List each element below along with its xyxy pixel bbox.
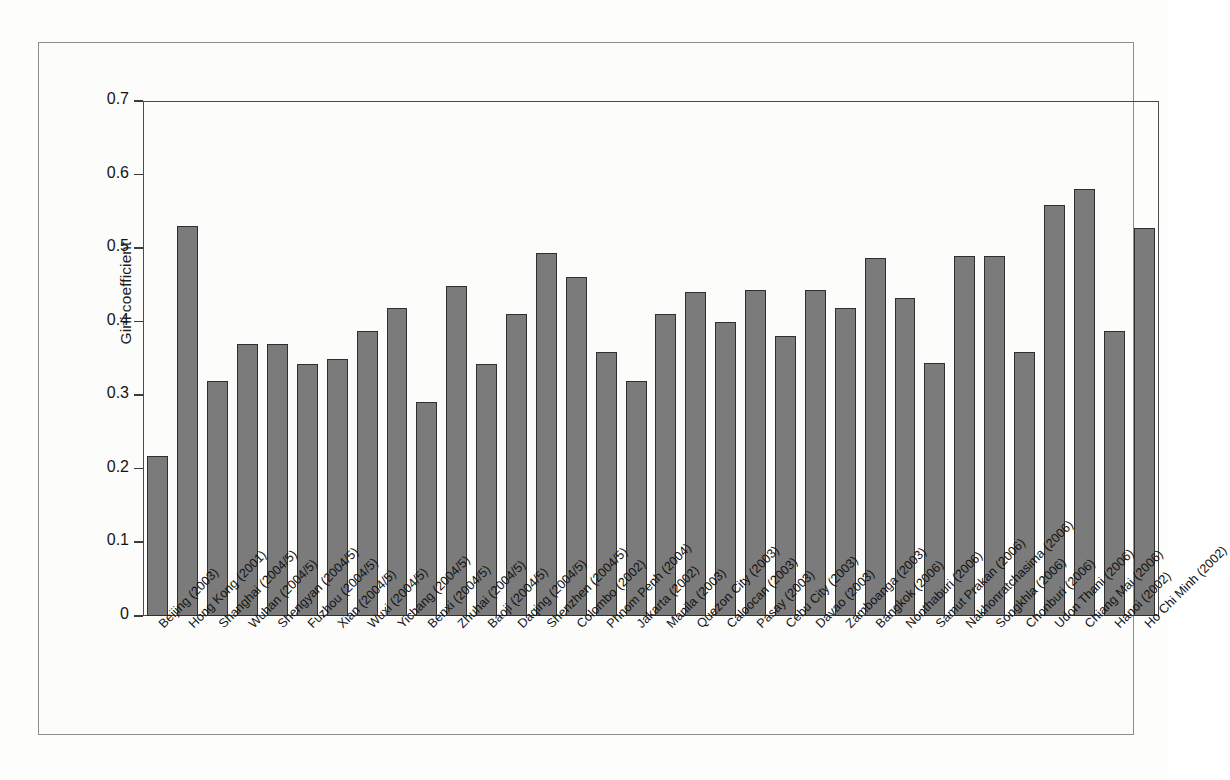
bar: [147, 456, 168, 616]
y-axis-tick-mark: [134, 541, 143, 543]
bar: [177, 226, 198, 616]
bar-series: [143, 101, 1159, 616]
bar: [536, 253, 557, 616]
y-axis-tick-mark: [134, 615, 143, 617]
y-axis-tick-label: 0.4: [107, 311, 129, 329]
bar: [805, 290, 826, 616]
y-axis-tick-mark: [134, 100, 143, 102]
y-axis-tick-mark: [134, 394, 143, 396]
y-axis-tick-label: 0.2: [107, 458, 129, 476]
y-axis-tick-label: 0.6: [107, 164, 129, 182]
y-axis-tick-mark: [134, 247, 143, 249]
bar: [1074, 189, 1095, 616]
y-axis-tick-mark: [134, 174, 143, 176]
y-axis-tick-mark: [134, 468, 143, 470]
y-axis-tick-label: 0.3: [107, 384, 129, 402]
y-axis-tick-label: 0.1: [107, 531, 129, 549]
y-axis-tick-label: 0.5: [107, 237, 129, 255]
figure-frame: Gini coefficient 00.10.20.30.40.50.60.7 …: [38, 42, 1134, 735]
y-axis-tick-label: 0: [120, 605, 129, 623]
y-axis-tick-label: 0.7: [107, 90, 129, 108]
y-axis-tick-mark: [134, 321, 143, 323]
x-axis-labels: Beijing (2003)Hong Kong (2001)Shanghai (…: [143, 621, 1159, 771]
y-axis-label: Gini coefficient: [117, 193, 135, 393]
bar: [865, 258, 886, 616]
